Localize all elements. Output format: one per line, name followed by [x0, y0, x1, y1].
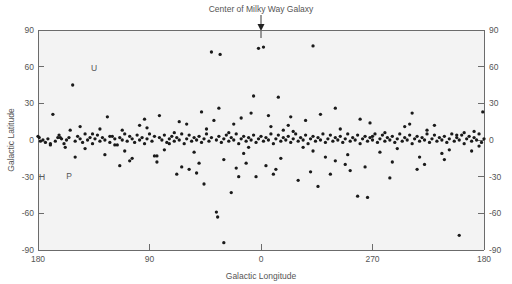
y-tick-label-right: -60 — [489, 208, 502, 218]
data-point — [398, 132, 401, 135]
data-point — [306, 142, 309, 145]
data-point — [304, 119, 307, 122]
data-point — [103, 153, 106, 156]
x-tick-label: 270 — [365, 254, 379, 264]
data-point — [140, 136, 143, 139]
data-point — [472, 130, 475, 133]
data-point — [477, 144, 480, 147]
data-point — [418, 155, 421, 158]
data-point — [118, 164, 121, 167]
data-point — [202, 182, 205, 185]
data-point — [185, 137, 188, 140]
data-point — [477, 132, 480, 135]
data-point — [440, 152, 443, 155]
data-point — [358, 118, 361, 121]
data-point — [383, 131, 386, 134]
data-point — [49, 142, 52, 145]
data-point — [222, 241, 225, 244]
y-tick-label: 90 — [25, 25, 35, 35]
data-point — [133, 141, 136, 144]
data-point — [465, 137, 468, 140]
data-point — [135, 133, 138, 136]
scatter-plot-figure: Center of Milky Way Galaxy — [0, 0, 512, 284]
data-point — [433, 124, 436, 127]
data-point — [453, 140, 456, 143]
data-point — [83, 132, 86, 135]
data-point — [410, 111, 413, 114]
data-point — [81, 141, 84, 144]
data-point — [227, 140, 230, 143]
data-point — [69, 129, 72, 132]
data-point — [202, 137, 205, 140]
data-point — [180, 132, 183, 135]
data-point — [192, 151, 195, 154]
data-point — [64, 146, 67, 149]
data-point — [51, 113, 54, 116]
data-point — [126, 140, 129, 143]
data-point — [346, 153, 349, 156]
data-point — [321, 132, 324, 135]
data-point — [438, 136, 441, 139]
data-point — [406, 138, 409, 141]
data-point — [153, 154, 156, 157]
data-point — [235, 132, 238, 135]
y-tick-label: -60 — [22, 208, 35, 218]
data-point — [334, 136, 337, 139]
data-point — [287, 135, 290, 138]
data-point — [324, 141, 327, 144]
data-point — [277, 96, 280, 99]
data-point — [86, 138, 89, 141]
y-tick-label: 0 — [29, 135, 34, 145]
x-tick-label: 90 — [145, 254, 155, 264]
data-point — [467, 135, 470, 138]
data-point — [410, 142, 413, 145]
y-axis-tick-labels-right: 90 60 30 0 -30 -60 -90 — [489, 25, 502, 255]
data-point — [415, 135, 418, 138]
y-tick-label: 60 — [25, 62, 35, 72]
data-point — [309, 137, 312, 140]
data-point — [59, 136, 62, 139]
data-point — [163, 133, 166, 136]
data-point — [232, 122, 235, 125]
data-point — [178, 120, 181, 123]
data-point — [212, 119, 215, 122]
data-point — [297, 140, 300, 143]
data-point — [168, 142, 171, 145]
data-point — [344, 137, 347, 140]
data-point — [282, 129, 285, 132]
data-point — [463, 142, 466, 145]
data-point — [78, 125, 81, 128]
data-point — [257, 47, 260, 50]
data-point — [158, 136, 161, 139]
data-point — [240, 116, 243, 119]
data-point — [242, 152, 245, 155]
data-point — [433, 133, 436, 136]
data-point — [475, 138, 478, 141]
data-point — [262, 140, 265, 143]
data-point — [319, 138, 322, 141]
data-point — [62, 142, 65, 145]
data-point — [65, 138, 68, 141]
data-point — [123, 132, 126, 135]
data-point — [356, 195, 359, 198]
data-point — [458, 234, 461, 237]
data-point — [361, 137, 364, 140]
data-point — [430, 137, 433, 140]
data-point — [200, 110, 203, 113]
data-point — [455, 133, 458, 136]
data-point — [403, 136, 406, 139]
data-point — [83, 147, 86, 150]
data-point — [282, 136, 285, 139]
data-point — [481, 110, 484, 113]
data-point — [218, 53, 221, 56]
data-point — [309, 170, 312, 173]
data-point — [339, 127, 342, 130]
data-point — [448, 137, 451, 140]
data-point — [425, 132, 428, 135]
data-point — [106, 115, 109, 118]
data-point — [210, 136, 213, 139]
data-point — [267, 138, 270, 141]
data-point — [316, 136, 319, 139]
data-point — [101, 136, 104, 139]
data-point — [314, 140, 317, 143]
